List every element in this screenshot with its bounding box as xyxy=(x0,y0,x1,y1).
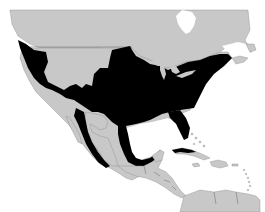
range-map xyxy=(0,0,265,212)
puerto-rico xyxy=(232,164,238,166)
